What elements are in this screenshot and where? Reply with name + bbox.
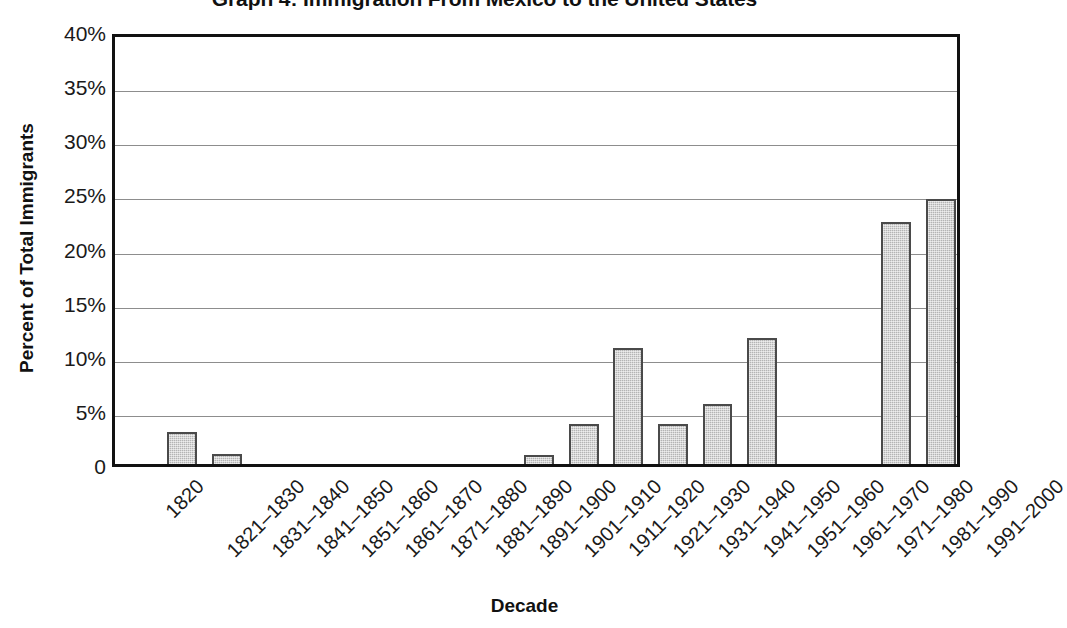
bar xyxy=(613,348,643,464)
y-tick-label: 35% xyxy=(6,77,106,98)
x-tick-label: 1820 xyxy=(161,475,208,522)
y-axis-tick-labels: 40%35%30%25%20%15%10%5%0 xyxy=(0,0,106,628)
chart-title: Graph 4: Immigration From Mexico to the … xyxy=(0,0,969,11)
bar-series xyxy=(115,37,957,464)
bar xyxy=(703,404,733,464)
bar xyxy=(881,222,911,464)
bar xyxy=(747,338,777,464)
y-tick-label: 30% xyxy=(6,131,106,152)
y-tick-label: 15% xyxy=(6,294,106,315)
bar xyxy=(212,454,242,464)
y-tick-label: 40% xyxy=(6,23,106,44)
bar xyxy=(926,199,956,464)
y-tick-label: 0 xyxy=(6,456,106,477)
bar xyxy=(569,424,599,464)
plot-area xyxy=(112,34,960,467)
bar xyxy=(167,432,197,464)
y-tick-label: 10% xyxy=(6,348,106,369)
bar xyxy=(524,455,554,464)
y-tick-label: 5% xyxy=(6,402,106,423)
x-axis-tick-labels: 18201821–18301831–18401841–18501851–1860… xyxy=(112,467,960,587)
x-axis-title: Decade xyxy=(0,595,969,617)
bar xyxy=(658,424,688,464)
y-tick-label: 20% xyxy=(6,240,106,261)
y-tick-label: 25% xyxy=(6,185,106,206)
